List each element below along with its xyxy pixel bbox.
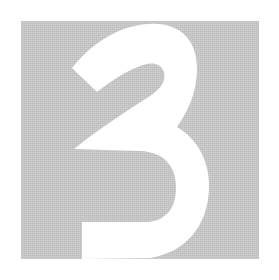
- number-tile-canvas: 3: [0, 0, 279, 280]
- digit-three-glyph: [0, 0, 279, 280]
- digit-three-shape: [72, 24, 209, 259]
